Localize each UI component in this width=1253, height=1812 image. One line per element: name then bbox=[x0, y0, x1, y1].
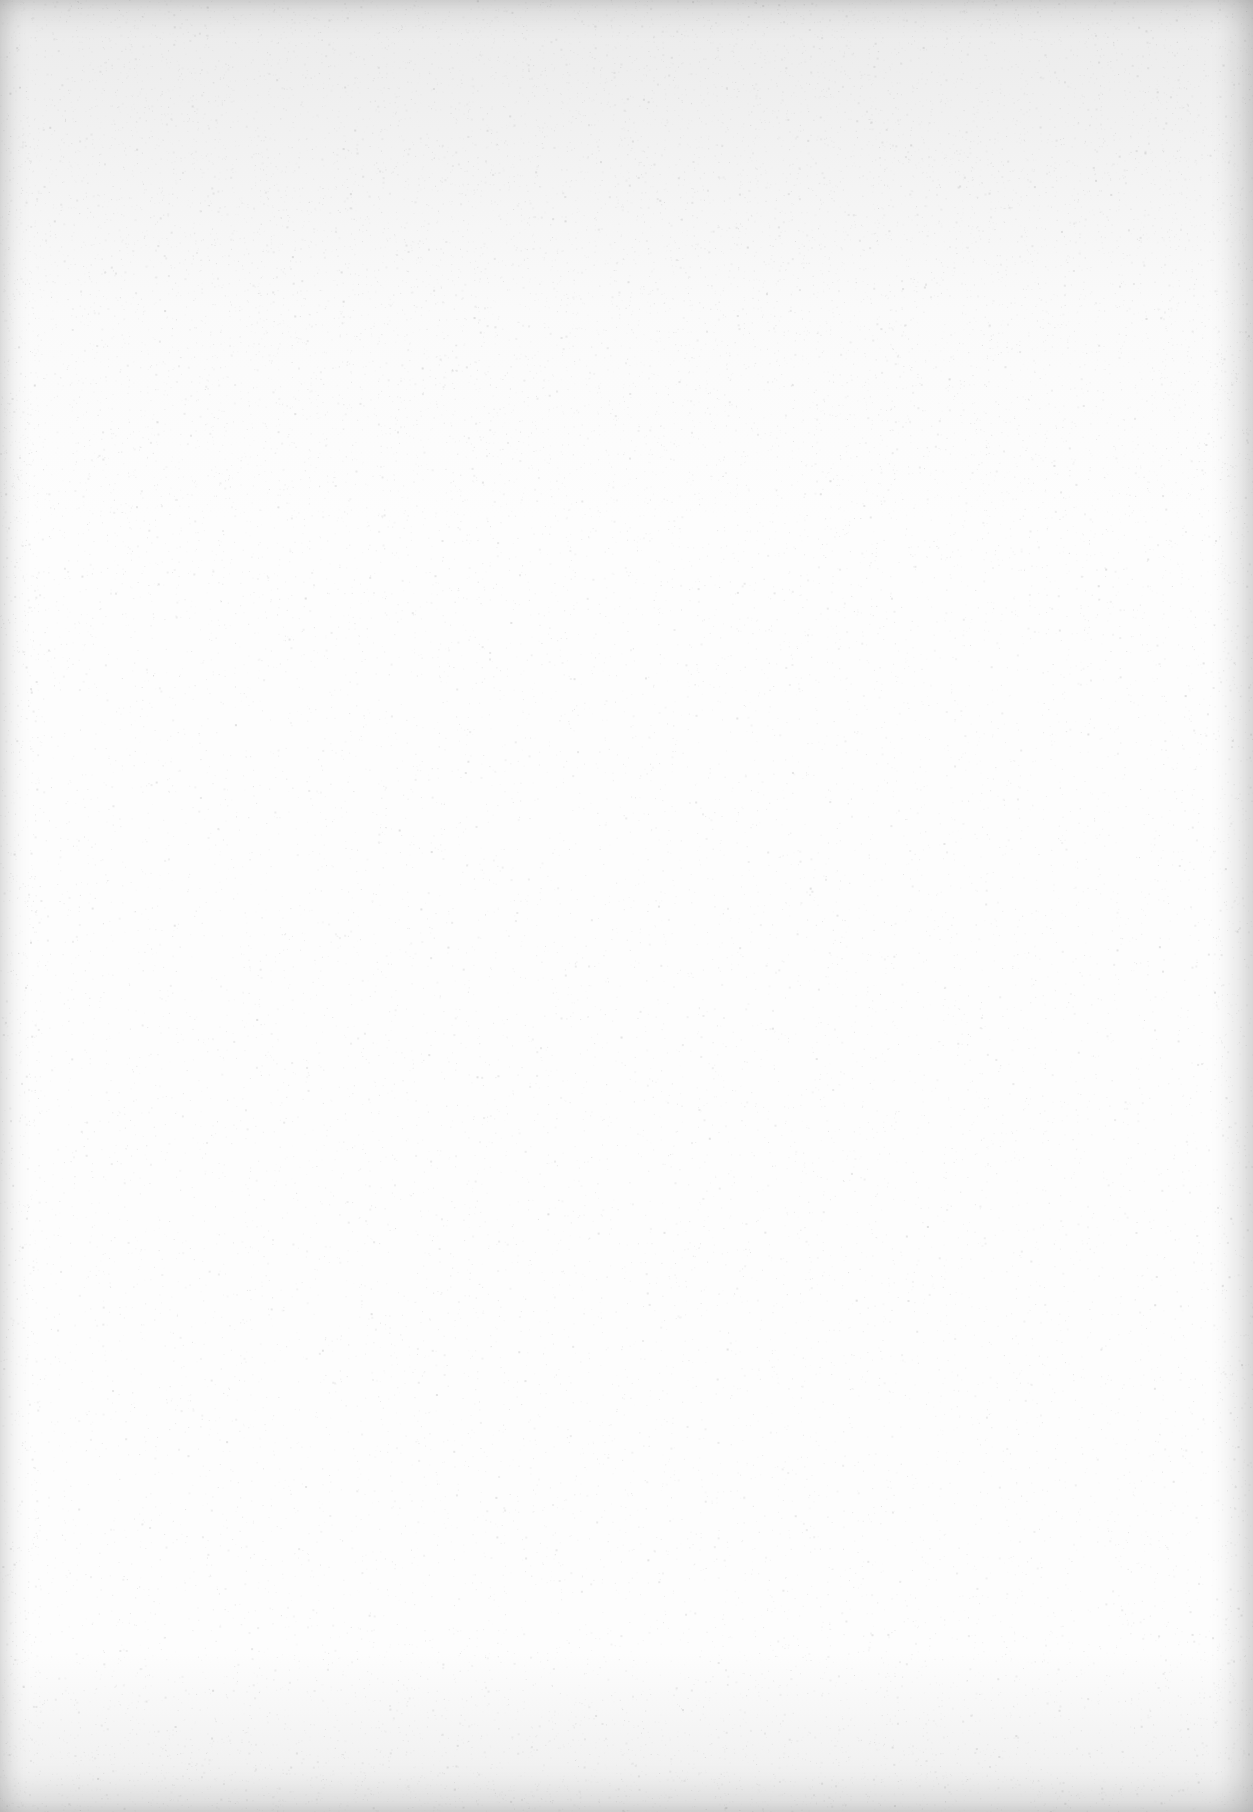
blank-page bbox=[0, 0, 1253, 1812]
scan-edge-shadow bbox=[0, 0, 1253, 1812]
scan-top-haze bbox=[0, 0, 1253, 520]
scan-bottom-haze bbox=[0, 1652, 1253, 1812]
paper-speckle-texture bbox=[0, 0, 1253, 1812]
